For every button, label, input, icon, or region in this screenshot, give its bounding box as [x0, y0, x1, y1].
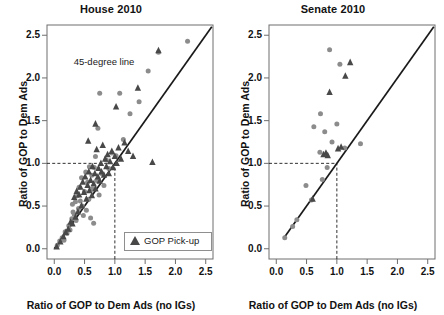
data-point-circle — [358, 141, 363, 146]
data-point-circle — [146, 69, 151, 74]
data-point-circle — [334, 122, 339, 127]
y-tick-label: 2.0 — [14, 72, 40, 83]
x-tick-label: 1.0 — [102, 266, 128, 277]
data-point-circle — [294, 217, 299, 222]
y-tick-label: 0.0 — [14, 243, 40, 254]
x-tick-label: 0.0 — [263, 266, 289, 277]
figure-scatter-pair: House 2010 Ratio of GOP to Dem Ads (no I… — [0, 0, 444, 315]
data-point-circle — [137, 99, 142, 104]
legend-label-gop-pickup: GOP Pick-up — [144, 235, 199, 246]
data-point-circle — [88, 216, 93, 221]
x-tick-label: 1.0 — [324, 266, 350, 277]
triangle-marker-icon — [130, 236, 140, 245]
x-tick-label: 2.5 — [415, 266, 441, 277]
legend-entry-gop-pickup: GOP Pick-up — [130, 235, 199, 246]
x-axis-title-house: Ratio of GOP to Dem Ads (no IGs) — [0, 299, 222, 311]
y-axis-title-senate: Ratio of GOP to Dem Ads — [239, 74, 251, 214]
x-tick-label: 1.5 — [132, 266, 158, 277]
data-point-circle — [97, 192, 102, 197]
data-point-circle — [185, 39, 190, 44]
y-tick-label: 1.0 — [14, 157, 40, 168]
data-point-circle — [330, 140, 335, 145]
data-point-circle — [318, 111, 323, 116]
x-axis-title-senate: Ratio of GOP to Dem Ads (no IGs) — [222, 299, 444, 311]
x-tick-label: 2.0 — [384, 266, 410, 277]
y-axis-title-house: Ratio of GOP to Dem Ads — [17, 74, 29, 214]
data-point-circle — [322, 129, 327, 134]
x-tick-label: 0.5 — [294, 266, 320, 277]
x-tick-label: 1.5 — [354, 266, 380, 277]
x-tick-label: 0.5 — [72, 266, 98, 277]
legend-house[interactable]: GOP Pick-up — [124, 232, 212, 251]
data-point-circle — [303, 183, 308, 188]
y-tick-label: 1.5 — [14, 115, 40, 126]
data-point-circle — [290, 224, 295, 229]
x-tick-label: 0.0 — [41, 266, 67, 277]
data-point-circle — [325, 165, 330, 170]
data-point-circle — [320, 177, 325, 182]
x-tick-label: 2.0 — [162, 266, 188, 277]
y-tick-label: 2.5 — [236, 29, 262, 40]
data-point-circle — [81, 213, 86, 218]
data-point-circle — [327, 47, 332, 52]
y-tick-label: 2.5 — [14, 29, 40, 40]
data-point-circle — [317, 150, 322, 155]
panel-senate-2010: Senate 2010 Ratio of GOP to Dem Ads (no … — [222, 0, 444, 315]
x-tick-label: 2.5 — [193, 266, 219, 277]
data-point-circle — [311, 124, 316, 129]
annotation-45-degree-line: 45-degree line — [74, 56, 135, 67]
data-point-circle — [282, 235, 287, 240]
y-tick-label: 0.5 — [14, 200, 40, 211]
panel-house-2010: House 2010 Ratio of GOP to Dem Ads (no I… — [0, 0, 222, 315]
data-point-circle — [117, 91, 122, 96]
data-point-circle — [91, 221, 96, 226]
y-tick-label: 0.0 — [236, 243, 262, 254]
data-point-circle — [78, 198, 83, 203]
data-point-circle — [128, 111, 133, 116]
data-point-circle — [337, 62, 342, 67]
data-point-circle — [97, 91, 102, 96]
data-point-circle — [93, 154, 98, 159]
